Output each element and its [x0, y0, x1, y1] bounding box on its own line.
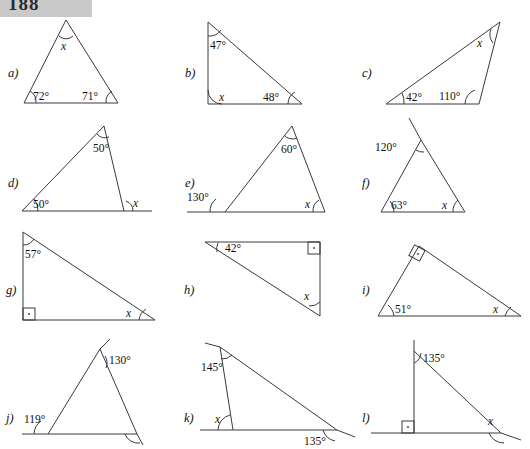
apex-extension-j: [100, 339, 110, 349]
side-extension-top-k: [205, 343, 220, 347]
side-extension-f: [409, 118, 421, 140]
angle-label-bottom-right-d: x: [132, 197, 139, 209]
problem-a: a) x 72° 71°: [0, 8, 177, 120]
angle-label-apex-a: x: [60, 40, 67, 52]
problem-i: i) 51° x: [353, 228, 530, 340]
angle-arc-bottom-right-e: [313, 200, 319, 212]
problem-k: k) 145° x 135°: [177, 337, 354, 449]
problem-d: d) 50° 50° x: [0, 118, 177, 230]
angle-label-apex-d: 50°: [93, 142, 110, 154]
angle-arc-top-left-k: [221, 355, 232, 359]
angle-label-apex-j: 130°: [109, 354, 131, 366]
triangle-outline-h: [205, 242, 320, 316]
problem-g: g) 57° x: [0, 228, 177, 340]
angle-arc-bottom-right-l: [489, 433, 504, 443]
angle-label-bottom-left-k: x: [214, 413, 221, 425]
angle-label-bottom-left-b: x: [218, 91, 225, 103]
triangle-outline-g: [23, 232, 155, 320]
angle-label-bottom-right-a: 71°: [82, 90, 99, 102]
angle-label-bottom-left-e: 130°: [187, 191, 209, 203]
angle-arc-bottom-right-d: [126, 201, 133, 211]
angle-label-bottom-right-c: 110°: [439, 90, 461, 102]
problem-e: e) 60° 130° x: [177, 118, 354, 230]
angle-arc-bottom-left-e: [210, 199, 216, 212]
angle-label-bottom-left-j: 119°: [24, 413, 46, 425]
angle-label-bottom-left-d: 50°: [33, 198, 50, 210]
angle-label-top-left-h: 42°: [225, 242, 242, 254]
problem-h: h) 42° x: [177, 228, 354, 340]
angle-label-bottom-right-i: x: [492, 303, 499, 315]
triangle-outline-k: [220, 347, 337, 430]
angle-label-bottom-right-l: x: [487, 415, 494, 427]
angle-arc-apex-a: [59, 36, 73, 39]
angle-label-bottom-left-i: 51°: [395, 303, 412, 315]
problem-f: f) 120° 63° x: [353, 118, 530, 230]
angle-label-bottom-right-k: 135°: [304, 435, 326, 447]
right-angle-dot-i: [417, 253, 419, 255]
angle-arc-bottom-right-b: [288, 92, 295, 104]
angle-label-bottom-right-e: x: [304, 198, 311, 210]
angle-arc-top-left-b: [208, 30, 221, 36]
angle-arc-bottom-left-i: [388, 305, 394, 316]
angle-label-apex-f: 120°: [375, 141, 397, 153]
right-angle-dot-g: [28, 313, 30, 315]
angle-arc-apex-c: [490, 29, 493, 43]
angle-label-top-left-k: 145°: [201, 361, 223, 373]
angle-label-apex-e: 60°: [281, 143, 298, 155]
angle-label-bottom-left-f: 63°: [391, 199, 408, 211]
angle-label-bottom-right-g: x: [125, 307, 132, 319]
angle-label-apex-l: 135°: [423, 352, 445, 364]
angle-arc-bottom-right-h: [309, 302, 320, 306]
angle-arc-bottom-right-f: [453, 200, 458, 212]
problem-l: l) 135° x: [353, 337, 530, 449]
angle-label-bottom-left-c: 42°: [406, 91, 423, 103]
angle-arc-apex-e: [284, 135, 297, 139]
side-extension-right-l: [501, 433, 521, 440]
angle-arc-bottom-right-g: [139, 309, 146, 320]
angle-arc-top-left-g: [23, 239, 34, 245]
angle-arc-apex-d: [97, 134, 109, 138]
angle-label-bottom-left-a: 72°: [33, 90, 50, 102]
angle-label-bottom-right-b: 48°: [263, 91, 280, 103]
angle-arc-bottom-right-i: [505, 307, 511, 316]
right-angle-dot-l: [407, 426, 409, 428]
angle-label-bottom-right-h: x: [303, 290, 310, 302]
angle-arc-bottom-left-c: [402, 93, 404, 104]
angle-arc-apex-f: [416, 150, 424, 152]
problem-c: c) x 42° 110°: [353, 8, 530, 120]
angle-arc-bottom-right-c: [465, 90, 475, 104]
angle-label-apex-c: x: [476, 37, 483, 49]
angle-label-top-left-b: 47°: [210, 39, 227, 51]
angle-label-bottom-right-f: x: [441, 199, 448, 211]
problem-b: b) 47° x 48°: [177, 8, 354, 120]
worksheet-page: 188 a) x 72° 71° b) 47° x: [0, 0, 530, 449]
problem-j: j) 130° 119°: [0, 337, 177, 449]
angle-label-top-left-g: 57°: [25, 248, 42, 260]
right-angle-dot-h: [313, 247, 315, 249]
